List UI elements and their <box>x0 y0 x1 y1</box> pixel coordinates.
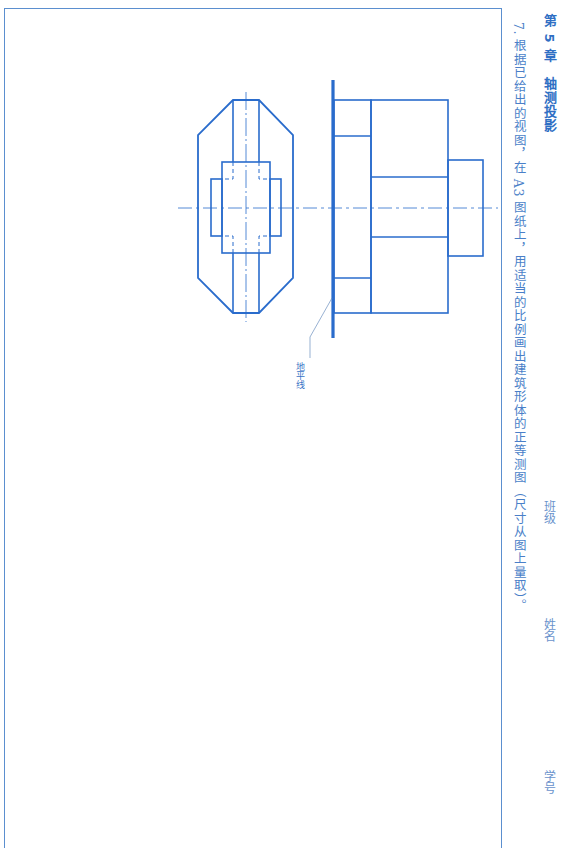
ground-line-label: 地平线 <box>294 362 307 389</box>
plan-view <box>198 92 293 322</box>
ground-line-leader <box>310 298 332 358</box>
elevation-view <box>333 80 483 338</box>
